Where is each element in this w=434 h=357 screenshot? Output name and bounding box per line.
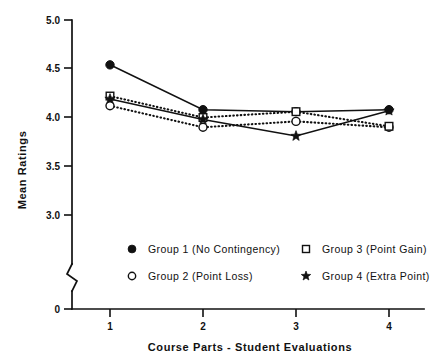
x-tick-label-1: 2 bbox=[200, 321, 206, 332]
series-markers-2 bbox=[106, 102, 393, 131]
y-tick-label-2: 4.0 bbox=[46, 112, 60, 123]
legend-label-3: Group 4 (Extra Point) bbox=[322, 270, 430, 282]
y-axis-break-icon bbox=[67, 264, 77, 291]
x-tick-label-2: 3 bbox=[293, 321, 299, 332]
filled-circle-marker bbox=[199, 106, 207, 114]
series-line-4 bbox=[110, 99, 389, 136]
legend-marker-2-open-square bbox=[303, 246, 310, 253]
y-axis-title: Mean Ratings bbox=[16, 131, 28, 210]
y-tick-label-1: 4.5 bbox=[46, 63, 60, 74]
chart-legend: Group 1 (No Contingency) Group 3 (Point … bbox=[148, 243, 430, 282]
series-line-2 bbox=[110, 106, 389, 128]
series-layer bbox=[105, 61, 394, 141]
legend-label-1: Group 3 (Point Gain) bbox=[322, 243, 427, 255]
open-square-marker bbox=[292, 108, 300, 116]
open-square-marker bbox=[385, 122, 393, 130]
x-tick-label-0: 1 bbox=[107, 321, 113, 332]
open-circle-marker bbox=[292, 117, 300, 125]
x-tick-label-3: 4 bbox=[386, 321, 392, 332]
legend-marker-1-filled-circle bbox=[128, 245, 136, 253]
chart-figure: 5.0 4.5 4.0 3.5 3.0 0 Mean Ratings 1 2 3… bbox=[0, 0, 434, 357]
y-tick-label-4: 3.0 bbox=[46, 210, 60, 221]
y-tick-label-3: 3.5 bbox=[46, 161, 60, 172]
line-chart: 5.0 4.5 4.0 3.5 3.0 0 Mean Ratings 1 2 3… bbox=[0, 0, 434, 357]
series-line-1 bbox=[110, 65, 389, 112]
open-circle-marker bbox=[199, 123, 207, 131]
y-axis bbox=[64, 20, 77, 309]
filled-circle-marker bbox=[106, 61, 114, 69]
y-tick-label-5: 0 bbox=[54, 304, 60, 315]
x-axis bbox=[72, 309, 424, 317]
legend-label-0: Group 1 (No Contingency) bbox=[148, 243, 280, 255]
y-tick-label-0: 5.0 bbox=[46, 15, 60, 26]
legend-marker-3-open-circle bbox=[128, 272, 135, 279]
star-marker bbox=[291, 131, 301, 141]
legend-label-2: Group 2 (Point Loss) bbox=[148, 270, 253, 282]
legend-marker-4-star bbox=[301, 271, 310, 280]
series-markers-4 bbox=[105, 94, 394, 141]
x-axis-title: Course Parts - Student Evaluations bbox=[148, 341, 352, 353]
